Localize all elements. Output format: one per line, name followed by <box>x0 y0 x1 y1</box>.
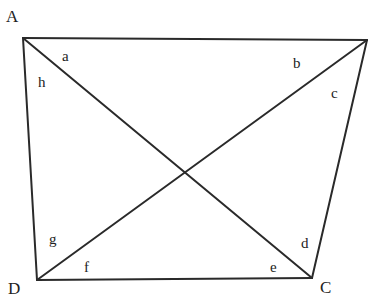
diagonal-bd <box>37 40 367 280</box>
angle-label-f: f <box>84 259 89 275</box>
vertex-label-c: C <box>320 278 331 297</box>
side-bc <box>312 40 367 278</box>
diagram-svg: A D C a b c d e f g h <box>0 0 375 303</box>
geometry-diagram: A D C a b c d e f g h <box>0 0 375 303</box>
angle-label-h: h <box>38 74 46 90</box>
side-cd <box>37 278 312 280</box>
side-da <box>23 38 37 280</box>
angle-label-a: a <box>62 48 69 64</box>
angle-label-c: c <box>331 85 338 101</box>
angle-label-b: b <box>293 55 301 71</box>
angle-label-e: e <box>270 259 277 275</box>
angle-label-g: g <box>49 231 57 247</box>
vertex-label-a: A <box>6 7 19 26</box>
side-ab <box>23 38 367 40</box>
angle-label-d: d <box>301 235 309 251</box>
diagonal-ac <box>23 38 312 278</box>
vertex-label-d: D <box>8 279 20 298</box>
